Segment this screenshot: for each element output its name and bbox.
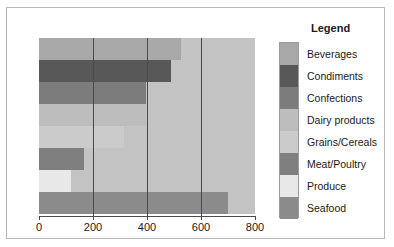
legend-swatch-produce — [280, 175, 298, 197]
x-tick-label-400: 400 — [127, 221, 167, 233]
bar-produce — [39, 170, 71, 192]
bar-grains-cereals — [39, 126, 124, 148]
x-tick-200 — [93, 216, 94, 220]
bar-seafood — [39, 192, 228, 214]
legend-swatch-beverages — [280, 43, 298, 65]
legend-label-beverages: Beverages — [307, 48, 357, 60]
x-tick-label-600: 600 — [181, 221, 221, 233]
x-tick-800 — [255, 216, 256, 220]
legend-swatch-condiments — [280, 65, 298, 87]
bar-beverages — [39, 38, 181, 60]
legend-swatch-grains-cereals — [280, 131, 298, 153]
legend-swatch-confections — [280, 87, 298, 109]
chart-frame: Legend BeveragesCondimentsConfectionsDai… — [6, 7, 385, 239]
legend-label-confections: Confections — [307, 92, 362, 104]
plot-area — [39, 38, 255, 216]
gridline-600 — [201, 38, 202, 216]
legend-swatch-strip — [279, 42, 299, 218]
x-tick-600 — [201, 216, 202, 220]
legend-label-grains-cereals: Grains/Cereals — [307, 136, 377, 148]
x-tick-label-200: 200 — [73, 221, 113, 233]
legend-label-meat-poultry: Meat/Poultry — [307, 158, 366, 170]
legend-swatch-dairy-products — [280, 109, 298, 131]
gridline-400 — [147, 38, 148, 216]
bar-condiments — [39, 60, 171, 82]
legend-title: Legend — [311, 22, 350, 34]
x-tick-400 — [147, 216, 148, 220]
legend-swatch-seafood — [280, 197, 298, 219]
legend-label-seafood: Seafood — [307, 202, 346, 214]
x-tick-label-800: 800 — [235, 221, 275, 233]
legend-label-produce: Produce — [307, 180, 346, 192]
legend-label-condiments: Condiments — [307, 70, 363, 82]
gridline-200 — [93, 38, 94, 216]
legend-label-dairy-products: Dairy products — [307, 114, 375, 126]
legend-swatch-meat-poultry — [280, 153, 298, 175]
bar-meat-poultry — [39, 148, 84, 170]
x-tick-label-0: 0 — [19, 221, 59, 233]
x-tick-0 — [39, 216, 40, 220]
